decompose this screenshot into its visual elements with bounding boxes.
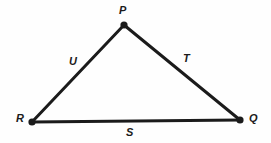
vertex-label-r: R [16,113,24,124]
triangle-figure: P Q R S T U [0,0,271,143]
vertex-dot-Q [236,116,243,123]
side-label-t: T [183,53,190,64]
vertex-dot-P [120,21,127,28]
triangle-drawing [0,0,271,143]
side-label-s: S [126,127,133,138]
side-RQ-line [32,120,240,122]
vertex-dot-R [28,118,35,125]
vertex-label-q: Q [249,113,258,124]
vertex-label-p: P [119,5,126,16]
side-label-u: U [69,56,77,67]
